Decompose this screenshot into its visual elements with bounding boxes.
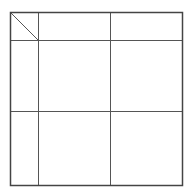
- grid-diagram: [0, 0, 192, 196]
- header-diagonal: [10, 12, 38, 40]
- grid-svg: [0, 0, 192, 196]
